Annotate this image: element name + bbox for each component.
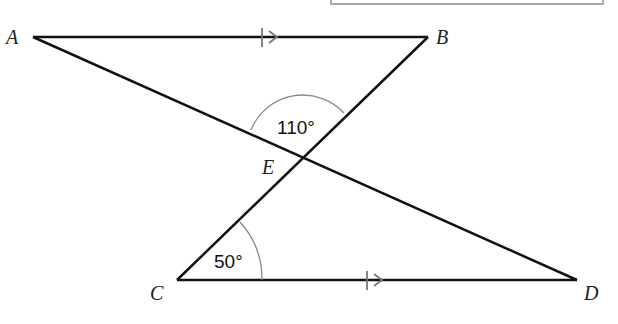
point-label-c: C — [150, 282, 164, 304]
geometry-figure: 110° 50° A B E C D — [0, 0, 618, 324]
segment-bc — [177, 37, 428, 280]
segment-ad — [33, 37, 577, 280]
top-box-frame — [331, 0, 603, 4]
angle-label-110: 110° — [277, 117, 315, 138]
point-label-d: D — [583, 282, 599, 304]
point-label-b: B — [436, 26, 448, 48]
angle-label-50: 50° — [214, 251, 243, 272]
point-label-e: E — [261, 156, 274, 178]
point-label-a: A — [4, 26, 19, 48]
angle-arc-ecd — [240, 222, 262, 280]
